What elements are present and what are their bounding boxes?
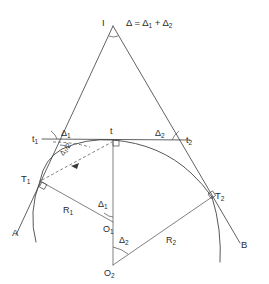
label-A: A [12,227,19,238]
label-delta2-top: Δ2 [155,128,165,139]
label-delta1-center: Δ1 [98,199,108,210]
label-delta2-center: Δ2 [119,235,129,246]
label-R1: R1 [63,205,74,216]
o2-angle-arc [113,247,128,254]
label-T2: T2 [215,190,225,202]
compound-curve-diagram: I Δ = Δ1 + Δ2 t1 Δ1 t Δ2 t2 Δ1/2 [0,0,269,284]
label-O2: O2 [104,268,115,279]
label-B: B [241,239,247,250]
label-delta-equation: Δ = Δ1 + Δ2 [126,17,173,29]
label-half-delta1: Δ1/2 [58,142,73,158]
label-T1: T1 [21,173,31,185]
label-delta1-top: Δ1 [61,128,71,139]
delta1-angle-arc [51,131,57,139]
label-t1: t1 [32,134,39,145]
apex-angle-arc [109,36,118,37]
diagram-canvas: I Δ = Δ1 + Δ2 t1 Δ1 t Δ2 t2 Δ1/2 [0,0,269,284]
circle1-extension-arc [33,181,40,242]
label-t-mid: t [110,126,113,136]
chord-arrowhead [71,163,79,169]
label-R2: R2 [166,235,177,246]
long-chord-dashed-line [42,142,112,180]
forward-tangent-line [113,26,240,243]
label-apex: I [102,17,105,28]
radius-r2-line [113,197,212,265]
o1-angle-arc [104,213,113,217]
label-t2: t2 [186,135,193,146]
label-O1: O1 [103,224,114,235]
